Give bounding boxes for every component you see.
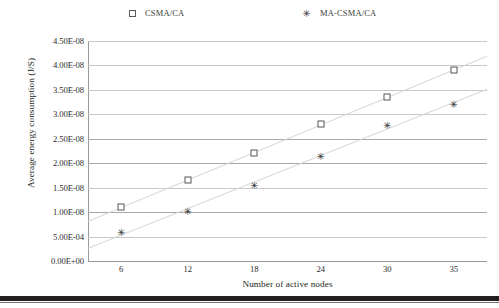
data-point-star-marker: ✳ [117,227,126,236]
y-tick-label: 2.00E-08 [0,159,84,168]
legend-label-ma-csma-ca: MA-CSMA/CA [320,8,376,18]
open-square-marker-icon [129,10,136,17]
legend-entry-csma-ca: CSMA/CA [129,8,184,18]
x-tick-label: 30 [383,264,392,275]
y-tick-label: 1.50E-08 [0,184,84,193]
plot-area: ✳✳✳✳✳✳ [88,41,487,261]
x-tick-label: 6 [119,264,123,275]
x-axis-title: Number of active nodes [88,279,487,289]
y-tick-label: 1.00E-08 [0,208,84,217]
x-tick-label: 24 [316,264,325,275]
page-footer-rule-thin [0,302,499,303]
x-axis-tick-labels: 61218243035 [88,264,487,278]
x-tick-label: 35 [449,264,458,275]
y-tick-label: 4.50E-08 [0,37,84,46]
x-axis-line [88,261,487,262]
star-marker-icon: ✳ [302,9,311,18]
data-point-star-marker: ✳ [183,207,192,216]
data-point-star-marker: ✳ [250,181,259,190]
data-point-star-marker: ✳ [383,121,392,130]
y-tick-label: 4.00E-08 [0,61,84,70]
data-point-star-marker: ✳ [449,99,458,108]
y-tick-label: 0.00E+00 [0,257,84,266]
data-point-star-marker: ✳ [316,151,325,160]
y-axis-tick-labels: 4.50E-08 4.00E-08 3.50E-08 3.00E-08 2.50… [0,41,84,261]
page-footer-rule [0,296,499,301]
y-tick-label: 3.50E-08 [0,86,84,95]
chart-figure: CSMA/CA ✳ MA-CSMA/CA 4.50E-08 4.00E-08 3… [0,0,499,308]
legend-label-csma-ca: CSMA/CA [145,8,184,18]
series-ma-csma-ca: ✳✳✳✳✳✳ [88,41,487,261]
legend-entry-ma-csma-ca: ✳ MA-CSMA/CA [302,8,376,18]
x-tick-label: 18 [250,264,259,275]
y-tick-label: 3.00E-08 [0,110,84,119]
y-tick-label: 5.00E-04 [0,233,84,242]
x-tick-label: 12 [183,264,192,275]
chart-legend: CSMA/CA ✳ MA-CSMA/CA [0,8,499,26]
y-axis-title: Average energy consumption (J/S) [26,18,36,228]
y-tick-label: 2.50E-08 [0,135,84,144]
